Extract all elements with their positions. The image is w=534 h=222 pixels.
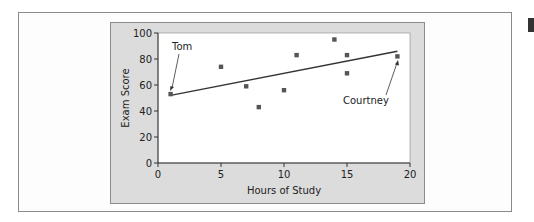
data-point-square [244,84,248,88]
x-tick-label: 15 [341,169,354,180]
y-tick-label: 20 [139,132,152,143]
x-tick-label: 0 [155,169,161,180]
data-point-square [345,53,349,57]
data-point-square [257,105,261,109]
x-ticks: 05101520 [155,163,417,180]
y-axis-label: Exam Score [120,68,131,127]
y-ticks: 020406080100 [133,28,158,169]
annotation-tom: Tom [171,41,192,52]
y-tick-label: 40 [139,106,152,117]
y-tick-label: 60 [139,80,152,91]
y-tick-label: 100 [133,28,152,39]
y-tick-label: 0 [146,158,152,169]
annotation-courtney: Courtney [343,95,389,106]
data-point-square [168,92,172,96]
data-point-square [294,53,298,57]
data-point-square [332,37,336,41]
x-axis-label: Hours of Study [247,185,321,196]
scatter-chart: 020406080100 05101520 Exam Score Hours o… [0,0,534,222]
x-tick-label: 10 [278,169,291,180]
x-tick-label: 20 [404,169,417,180]
data-point-square [219,65,223,69]
data-point-square [282,88,286,92]
data-point-square [395,54,399,58]
y-tick-label: 80 [139,54,152,65]
x-tick-label: 5 [218,169,224,180]
data-point-square [345,71,349,75]
